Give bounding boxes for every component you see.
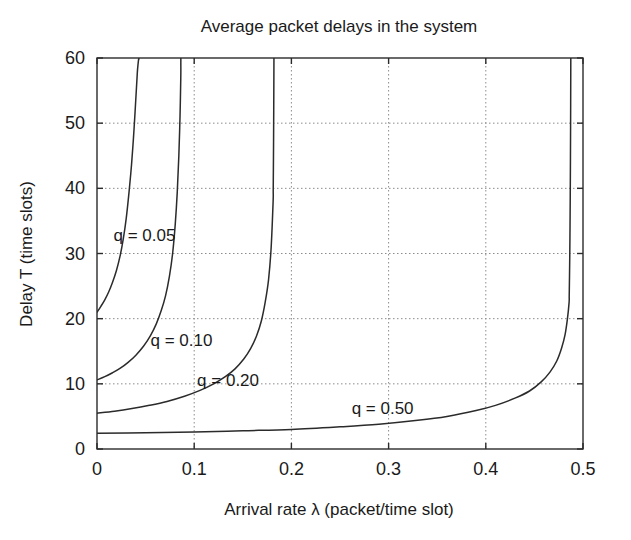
y-tick-label: 40 xyxy=(65,178,85,198)
x-tick-label: 0.2 xyxy=(279,459,304,479)
x-tick-label: 0.4 xyxy=(473,459,498,479)
curve-annotation: q = 0.20 xyxy=(197,371,259,390)
x-tick-label: 0.3 xyxy=(376,459,401,479)
chart-svg: Average packet delays in the system Dela… xyxy=(0,0,631,540)
gridlines xyxy=(97,58,583,449)
curve-annotation: q = 0.50 xyxy=(352,399,414,418)
y-tick-label: 30 xyxy=(65,244,85,264)
y-tick-label: 20 xyxy=(65,309,85,329)
y-tick-label: 10 xyxy=(65,374,85,394)
y-axis-title: Delay T (time slots) xyxy=(17,181,36,327)
chart-title: Average packet delays in the system xyxy=(201,17,478,36)
y-tick-label: 0 xyxy=(75,439,85,459)
curve-0-05 xyxy=(97,0,139,312)
y-tick-label: 60 xyxy=(65,48,85,68)
x-tick-labels: 00.10.20.30.40.5 xyxy=(92,459,596,479)
curve-annotations: q = 0.05q = 0.10q = 0.20q = 0.50 xyxy=(114,226,414,418)
chart-figure: Average packet delays in the system Dela… xyxy=(0,0,631,540)
data-curves xyxy=(97,0,571,433)
y-tick-labels: 0102030405060 xyxy=(65,48,85,459)
x-axis-title: Arrival rate λ (packet/time slot) xyxy=(224,500,454,519)
x-tick-label: 0.5 xyxy=(570,459,595,479)
curve-annotation: q = 0.10 xyxy=(150,331,212,350)
x-tick-label: 0 xyxy=(92,459,102,479)
curve-0-5 xyxy=(97,0,571,433)
curve-0-2 xyxy=(97,0,274,413)
curve-annotation: q = 0.05 xyxy=(114,226,176,245)
curve-0-1 xyxy=(97,0,181,380)
x-tick-label: 0.1 xyxy=(182,459,207,479)
y-tick-label: 50 xyxy=(65,113,85,133)
